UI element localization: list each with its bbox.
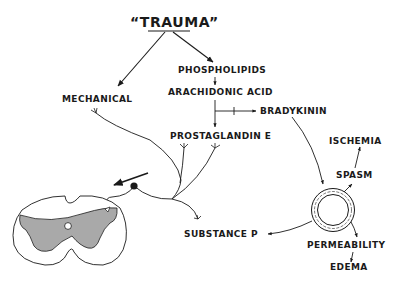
- arrow-bradykinin-to-vessel: [292, 117, 323, 184]
- label-arachidonic-acid: ARACHIDONIC ACID: [168, 88, 273, 97]
- label-mechanical: MECHANICAL: [62, 95, 132, 104]
- label-ischemia: ISCHEMIA: [329, 137, 382, 146]
- arrow-spasm-to-ischemia: [355, 147, 360, 168]
- label-prostaglandin-e: PROSTAGLANDIN E: [170, 132, 271, 141]
- spinal-cord-figure: [13, 196, 126, 265]
- label-bradykinin: BRADYKININ: [260, 107, 327, 116]
- arrow-arachidonic-to-bradykinin: [215, 107, 256, 115]
- label-substance-p: SUBSTANCE P: [184, 230, 258, 239]
- label-permeability: PERMEABILITY: [307, 241, 386, 250]
- arrow-permeability-to-edema: [351, 252, 353, 262]
- label-edema: EDEMA: [330, 263, 368, 272]
- arrow-trauma-to-mechanical: [118, 32, 165, 86]
- label-phospholipids: PHOSPHOLIPIDS: [178, 66, 266, 75]
- label-spasm: SPASM: [336, 171, 373, 180]
- blood-vessel-figure: [312, 189, 355, 232]
- neuron-cell-body: [130, 182, 137, 189]
- arrow-vessel-to-substance-p: [268, 221, 312, 234]
- arrow-trauma-to-phospholipids: [173, 32, 213, 62]
- arrow-signal-to-cord: [114, 173, 148, 185]
- title-trauma: “TRAUMA”: [130, 15, 219, 29]
